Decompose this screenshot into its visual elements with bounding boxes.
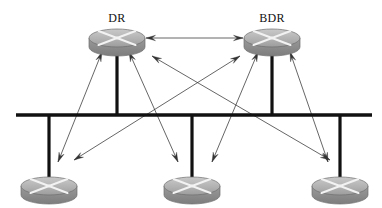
router-drother-right-glyph-hub (339, 185, 342, 188)
router-dr[interactable] (89, 29, 145, 56)
adjacency-bdr-left-head-start (231, 56, 240, 63)
adjacency-bdr-right[interactable] (290, 52, 328, 162)
router-drother-mid-glyph-hub (191, 185, 194, 188)
adjacency-bdr-mid-head-end (212, 152, 218, 162)
adjacency-dr-right[interactable] (152, 56, 330, 160)
router-drother-left-glyph-hub (48, 185, 51, 188)
adjacency-dr-left[interactable] (58, 52, 102, 162)
network-topology-diagram: DRBDR (0, 0, 382, 208)
router-bdr-glyph-hub (271, 37, 274, 40)
adjacency-dr-mid-head-end (172, 152, 178, 162)
adjacency-bdr-left[interactable] (74, 56, 240, 160)
router-bdr[interactable] (244, 29, 300, 56)
adjacency-dr-mid[interactable] (129, 52, 178, 162)
router-drother-left[interactable] (21, 177, 77, 204)
adjacency-bdr-mid[interactable] (212, 52, 258, 162)
router-dr-glyph-hub (116, 37, 119, 40)
adjacency-bdr-left-line (74, 56, 240, 160)
adjacency-dr-bdr[interactable] (146, 35, 243, 40)
adjacency-dr-left-line (58, 52, 102, 162)
adjacency-bdr-right-line (290, 52, 328, 162)
topology-canvas (0, 0, 382, 208)
adjacency-dr-right-head-start (152, 56, 162, 63)
adjacency-dr-right-line (152, 56, 330, 160)
adjacency-bdr-mid-line (212, 52, 258, 162)
router-label-bdr: BDR (259, 12, 285, 24)
router-drother-right[interactable] (312, 177, 368, 204)
adjacency-bdr-left-head-end (74, 153, 83, 160)
router-label-dr: DR (108, 12, 125, 24)
router-drother-mid[interactable] (164, 177, 220, 204)
adjacency-dr-mid-line (129, 52, 178, 162)
stub-links-layer (49, 48, 340, 177)
